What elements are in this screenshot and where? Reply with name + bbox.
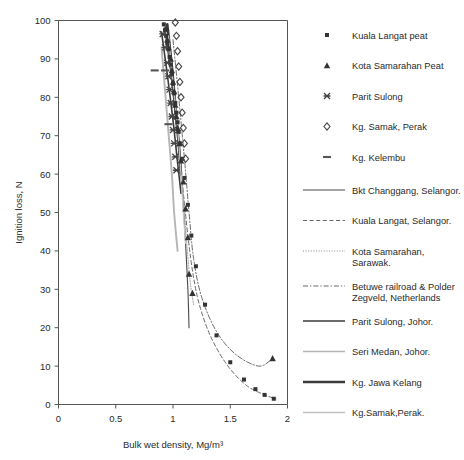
data-point-square [203, 303, 207, 307]
legend-line-label-6: Kg. Jawa Kelang [352, 378, 422, 388]
data-point-cross [172, 154, 179, 160]
legend-line-label-1: Kuala Langat, Selangor. [352, 216, 451, 226]
x-tick-label-0: 0 [56, 413, 61, 424]
data-point-square [194, 264, 198, 268]
y-tick-label-100: 100 [35, 15, 51, 26]
legend-line-label-3: Betuwe railroad & Polder [352, 282, 455, 292]
data-point-square [215, 333, 219, 337]
legend-marker-label-3: Kg. Samak, Perak [352, 122, 427, 132]
chart-canvas: 0102030405060708090100Ignition loss, N00… [0, 0, 464, 460]
legend-marker-label-4: Kg. Kelembu [352, 153, 405, 163]
y-tick-label-50: 50 [40, 207, 51, 218]
chart-figure: 0102030405060708090100Ignition loss, N00… [0, 0, 464, 460]
legend-line-label-2: Kota Samarahan, [352, 247, 424, 257]
y-tick-label-70: 70 [40, 130, 51, 141]
data-point-triangle [269, 355, 275, 361]
data-point-diamond [172, 19, 178, 26]
data-point-triangle [324, 62, 330, 68]
data-point-square [189, 234, 193, 238]
legend-line-label-0: Bkt Changgang, Selangor. [352, 186, 461, 196]
data-point-square [228, 360, 232, 364]
legend-marker-label-0: Kuala Langat peat [352, 31, 428, 41]
y-tick-label-10: 10 [40, 361, 51, 372]
data-point-cross [173, 167, 180, 173]
data-point-square [186, 203, 190, 207]
y-tick-label-60: 60 [40, 169, 51, 180]
legend-line-label-5: Seri Medan, Johor. [352, 347, 430, 357]
legend-line-label-7: Kg.Samak,Perak. [352, 408, 424, 418]
x-tick-label-1.5: 1.5 [224, 413, 237, 424]
legend-marker-label-2: Parit Sulong [352, 92, 403, 102]
data-point-square [176, 120, 180, 124]
data-point-square [272, 397, 276, 401]
x-tick-label-2: 2 [285, 413, 290, 424]
data-point-square [325, 33, 329, 37]
data-point-diamond [173, 32, 179, 39]
data-point-cross [171, 140, 178, 146]
data-point-cross [324, 93, 331, 99]
data-point-square [263, 393, 267, 397]
y-tick-label-20: 20 [40, 322, 51, 333]
data-point-cross [162, 44, 169, 50]
y-tick-label-80: 80 [40, 92, 51, 103]
data-point-square [253, 387, 257, 391]
fit-line [164, 24, 276, 398]
data-point-diamond [324, 123, 330, 130]
x-tick-label-1: 1 [170, 413, 175, 424]
legend-line-label-2-cont: Sarawak. [352, 258, 391, 268]
legend-line-label-4: Parit Sulong, Johor. [352, 317, 433, 327]
legend-line-label-3-cont: Zegveld, Netherlands [352, 293, 441, 303]
data-point-triangle [170, 79, 176, 85]
y-tick-label-40: 40 [40, 245, 51, 256]
x-axis-title: Bulk wet density, Mg/m³ [123, 439, 223, 450]
data-point-diamond [176, 63, 182, 70]
data-point-cross [170, 127, 177, 133]
y-tick-label-30: 30 [40, 284, 51, 295]
data-point-triangle [189, 290, 195, 296]
x-tick-label-0.5: 0.5 [109, 413, 122, 424]
y-tick-label-90: 90 [40, 53, 51, 64]
data-point-diamond [175, 48, 181, 55]
data-point-cross [164, 60, 171, 66]
y-axis-title: Ignition loss, N [13, 181, 24, 243]
y-tick-label-0: 0 [45, 399, 50, 410]
legend-marker-label-1: Kota Samarahan Peat [352, 61, 444, 71]
data-point-square [242, 378, 246, 382]
data-point-square [162, 22, 166, 26]
